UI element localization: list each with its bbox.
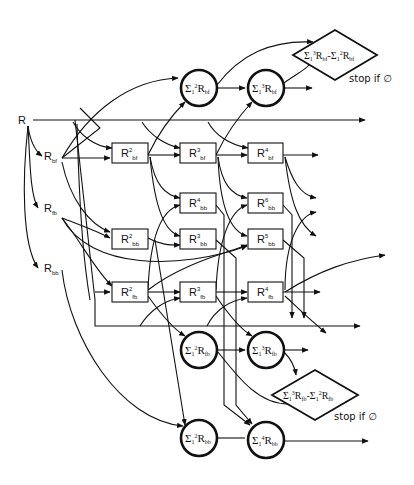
box-r2-bb: R2bb xyxy=(112,229,148,249)
box-r3-bb: R3bb xyxy=(180,229,216,249)
flow-diagram: R Rbf Rfb Rbb xyxy=(0,0,414,485)
sum-node-3-bf: Σ13Rbf xyxy=(248,70,284,106)
sum-node-2-bf: Σ12Rbf xyxy=(181,70,217,106)
decision-diamond-fb: Σ13Rfb-Σ12Rfb stop if ∅ xyxy=(272,370,377,422)
root-to-rbb-arrow xyxy=(24,126,38,268)
sum-node-2-bb: Σ12Rbb xyxy=(181,420,217,456)
stop-label-fb: stop if ∅ xyxy=(334,411,377,422)
box-r6-bb: R6bb xyxy=(248,193,283,213)
sum-node-3-fb: Σ13Rfb xyxy=(248,332,284,368)
box-r3-fb: R3fb xyxy=(180,282,216,302)
decision-diamond-bf: Σ13Rbf-Σ12Rbf stop if ∅ xyxy=(293,30,392,84)
root-to-rbf-arrow xyxy=(28,126,42,156)
box-r4-fb: R4fb xyxy=(248,282,283,302)
input-r-fb: Rfb xyxy=(44,202,58,216)
sum-node-2-fb: Σ12Rfb xyxy=(181,332,217,368)
svg-text:Rfb: Rfb xyxy=(44,202,58,216)
svg-text:Rbb: Rbb xyxy=(44,262,59,276)
box-r5-bb: R5bb xyxy=(248,229,283,249)
box-r2-bf: R2bf xyxy=(112,143,148,163)
root-label: R xyxy=(18,114,26,126)
box-r3-bf: R3bf xyxy=(180,143,216,163)
input-r-bb: Rbb xyxy=(44,262,59,276)
svg-text:Rbf: Rbf xyxy=(44,150,57,164)
root-to-rfb-arrow xyxy=(28,126,38,208)
box-r2-fb: R2fb xyxy=(112,282,148,302)
input-r-bf: Rbf xyxy=(44,150,57,164)
stop-label-bf: stop if ∅ xyxy=(349,73,392,84)
sum-node-4-bb: Σ14Rbb xyxy=(248,422,284,458)
connections xyxy=(62,42,385,441)
box-r4-bf: R4bf xyxy=(248,143,283,163)
box-r4-bb: R4bb xyxy=(180,193,216,213)
